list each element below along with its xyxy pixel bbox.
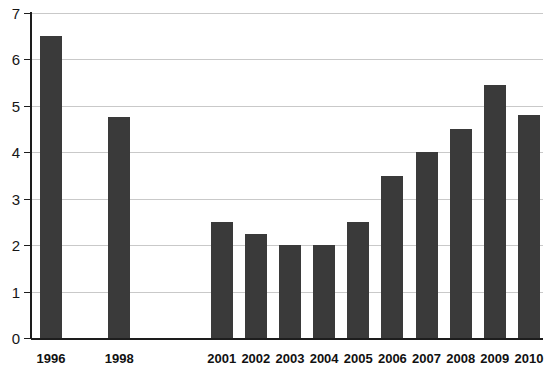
- y-axis-tick-label: 7: [2, 6, 20, 21]
- y-axis-tick-label: 4: [2, 145, 20, 160]
- bar-chart: 01234567 1996199820012002200320042005200…: [0, 0, 547, 384]
- y-axis-tick-labels: 01234567: [0, 0, 547, 384]
- x-axis-tick-label: 2010: [507, 352, 547, 365]
- y-axis-tick-label: 3: [2, 192, 20, 207]
- x-axis-tick-label: 1998: [97, 352, 141, 365]
- y-axis-tick-label: 6: [2, 52, 20, 67]
- y-axis-tick-label: 5: [2, 99, 20, 114]
- y-axis-tick-label: 1: [2, 285, 20, 300]
- y-axis-tick-label: 0: [2, 331, 20, 346]
- y-axis-tick-label: 2: [2, 238, 20, 253]
- x-axis-tick-label: 1996: [29, 352, 73, 365]
